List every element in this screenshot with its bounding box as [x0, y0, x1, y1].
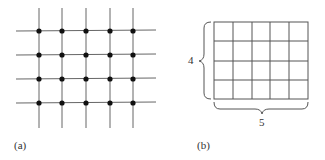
height-label: 4: [188, 54, 194, 66]
panel-a-label: (a): [14, 139, 26, 151]
width-brace: [214, 102, 308, 114]
panel-b-label: (b): [197, 139, 210, 151]
height-brace: [199, 22, 211, 99]
panel-a-lattice: [16, 8, 156, 128]
width-label: 5: [259, 116, 265, 128]
panel-b-grid: [214, 22, 308, 99]
figure: [0, 0, 325, 160]
